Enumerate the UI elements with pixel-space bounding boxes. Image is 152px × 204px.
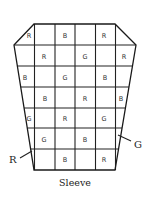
r-leader-line	[20, 151, 32, 158]
cell-color-letter: R	[102, 156, 107, 164]
cell-color-letter: B	[83, 136, 87, 144]
callout-g-label: G	[134, 139, 142, 150]
cell-color-letter: B	[119, 95, 123, 103]
cell-color-letter: R	[83, 95, 88, 103]
cell-color-letter: G	[41, 136, 46, 144]
diagram-caption: Sleeve	[59, 177, 91, 188]
sleeve-diagram: RBRRGRBGBBRBGRGGBBR R G Sleeve	[0, 0, 152, 204]
cell-color-letter: R	[63, 115, 68, 123]
cell-color-letter: G	[62, 74, 67, 82]
cell-color-letter: B	[63, 32, 67, 40]
cell-color-letter: G	[82, 53, 87, 61]
cell-color-letter: R	[42, 53, 47, 61]
cell-color-letter: B	[43, 95, 47, 103]
grid-lines	[14, 24, 136, 170]
cell-color-letter: R	[102, 32, 107, 40]
cell-color-letter: G	[26, 115, 31, 123]
cell-color-letter: B	[23, 74, 27, 82]
cell-color-letter: B	[63, 156, 67, 164]
cell-color-letter: B	[103, 74, 107, 82]
cell-color-letter: R	[122, 53, 127, 61]
cell-color-letter: R	[27, 32, 32, 40]
cell-color-letter: G	[101, 115, 106, 123]
callout-r-label: R	[9, 154, 17, 165]
